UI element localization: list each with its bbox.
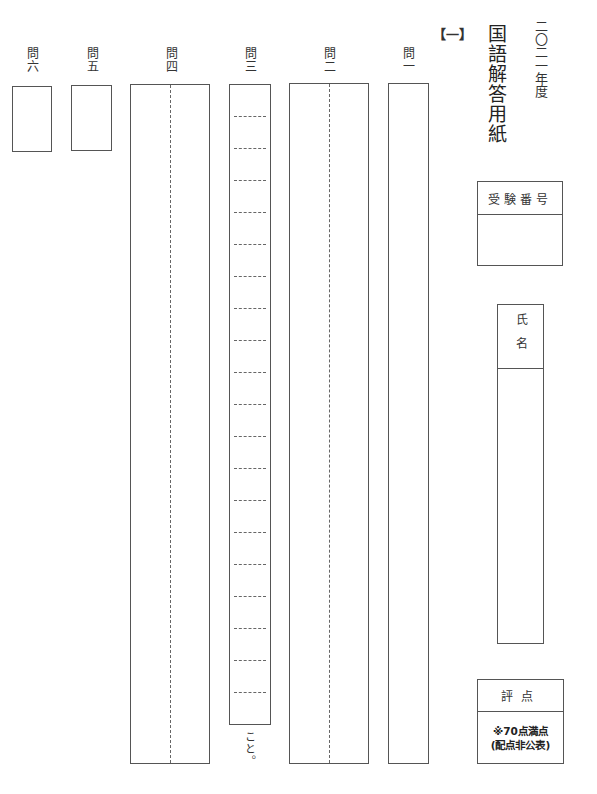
row-divider: [234, 692, 266, 693]
center-divider: [170, 85, 171, 763]
row-divider: [234, 372, 266, 373]
question-4-label: 問四: [164, 47, 176, 73]
row-divider: [234, 596, 266, 597]
row-divider: [234, 180, 266, 181]
score-box: 評点 ※70点満点 (配点非公表): [477, 679, 564, 764]
question-1-label: 問一: [401, 47, 413, 73]
row-divider: [234, 468, 266, 469]
name-label: 氏名: [498, 305, 543, 369]
row-divider: [234, 660, 266, 661]
exam-number-input[interactable]: [478, 215, 562, 265]
exam-number-label: 受験番号: [478, 182, 562, 215]
name-label-text: 氏名: [512, 313, 529, 361]
row-divider: [234, 244, 266, 245]
row-divider: [234, 308, 266, 309]
question-3-label: 問三: [243, 47, 255, 73]
answer-box-q4[interactable]: [130, 84, 210, 764]
row-divider: [234, 148, 266, 149]
score-note-undisclosed: (配点非公表): [478, 738, 563, 752]
question-5-label: 問五: [85, 47, 97, 73]
section-marker: 【一】: [433, 24, 472, 43]
row-divider: [234, 404, 266, 405]
score-label: 評点: [478, 680, 563, 712]
exam-number-box: 受験番号: [477, 181, 563, 266]
answer-box-q5[interactable]: [71, 85, 112, 151]
row-divider: [234, 436, 266, 437]
row-divider: [234, 564, 266, 565]
row-divider: [234, 276, 266, 277]
row-divider: [234, 500, 266, 501]
row-divider: [234, 628, 266, 629]
center-divider: [329, 84, 330, 763]
question-2-label: 問二: [322, 47, 334, 73]
row-divider: [234, 532, 266, 533]
exam-year: 二〇二一年度: [534, 20, 547, 98]
score-note-max: ※70点満点: [478, 724, 563, 738]
answer-box-q1[interactable]: [388, 83, 429, 764]
question-3-suffix: こと。: [244, 731, 255, 767]
answer-box-q6[interactable]: [12, 86, 52, 152]
row-divider: [234, 212, 266, 213]
answer-box-q2[interactable]: [289, 83, 369, 764]
name-box: 氏名: [497, 304, 544, 644]
name-input[interactable]: [498, 369, 543, 643]
answer-box-q3[interactable]: [229, 84, 271, 725]
row-divider: [234, 116, 266, 117]
question-6-label: 問六: [25, 47, 37, 73]
page-title: 国語解答用紙: [486, 24, 505, 144]
row-divider: [234, 340, 266, 341]
